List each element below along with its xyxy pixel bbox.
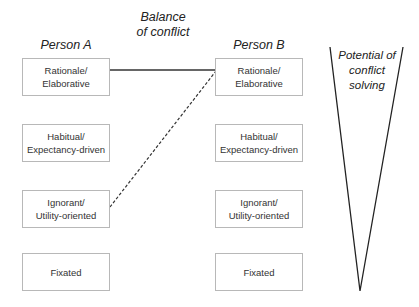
box-label: Elaborative (235, 77, 283, 90)
box-label: Elaborative (42, 77, 90, 90)
person-a-box-ignorant: Ignorant/Utility-oriented (22, 190, 110, 228)
box-label: Fixated (243, 266, 274, 279)
person-b-box-ignorant: Ignorant/Utility-oriented (215, 190, 303, 228)
potential-line-2: conflict (330, 63, 404, 78)
person-a-box-fixated: Fixated (22, 253, 110, 291)
box-label: Habitual/ (220, 130, 298, 143)
box-label: Utility-oriented (36, 209, 97, 222)
potential-label: Potential of conflict solving (330, 48, 404, 93)
box-label: Expectancy-driven (27, 143, 105, 156)
box-label: Ignorant/ (36, 196, 97, 209)
box-label: Utility-oriented (229, 209, 290, 222)
box-label: Fixated (50, 266, 81, 279)
box-label: Rationale/ (42, 64, 90, 77)
person-b-box-habitual: Habitual/Expectancy-driven (215, 124, 303, 162)
person-b-box-rationale: Rationale/Elaborative (215, 58, 303, 96)
person-b-box-fixated: Fixated (215, 253, 303, 291)
potential-line-3: solving (330, 78, 404, 93)
person-a-box-rationale: Rationale/Elaborative (22, 58, 110, 96)
potential-line-1: Potential of (330, 48, 404, 63)
person-a-box-habitual: Habitual/Expectancy-driven (22, 124, 110, 162)
dashed-connector (110, 71, 216, 207)
box-label: Habitual/ (27, 130, 105, 143)
box-label: Rationale/ (235, 64, 283, 77)
box-label: Expectancy-driven (220, 143, 298, 156)
box-label: Ignorant/ (229, 196, 290, 209)
